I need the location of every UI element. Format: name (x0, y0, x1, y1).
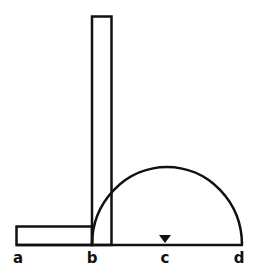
vertical-bar (92, 17, 112, 246)
label-c: c (161, 249, 170, 267)
diagram-canvas: a b c d (0, 0, 258, 278)
label-b: b (87, 249, 98, 267)
horizontal-bar (17, 227, 93, 246)
semicircle (92, 167, 242, 245)
label-d: d (234, 249, 245, 267)
triangle-marker-icon (159, 235, 171, 243)
label-a: a (13, 249, 23, 267)
